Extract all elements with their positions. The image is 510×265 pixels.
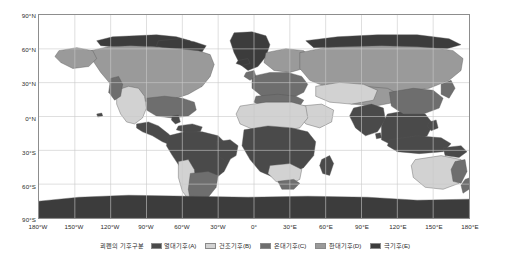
y-tick-label: 90°N [0, 12, 36, 19]
x-tick-label: 90°W [126, 223, 166, 230]
y-tick-label: 60°S [0, 182, 36, 189]
legend-label-temperate: 온대기후(C) [274, 241, 307, 250]
legend-item-arid[interactable]: 건조기후(B) [205, 241, 251, 250]
legend-swatch-tropical [151, 243, 162, 249]
x-tick-label: 150°E [414, 223, 454, 230]
x-tick-label: 30°W [198, 223, 238, 230]
region-sri-lanka-tropical [375, 133, 381, 139]
legend-label-arid: 건조기후(B) [219, 241, 251, 250]
x-tick-label: 90°E [342, 223, 382, 230]
legend-swatch-polar [370, 243, 381, 249]
legend-item-continental[interactable]: 한대기후(D) [315, 241, 361, 250]
x-tick-label: 60°E [306, 223, 346, 230]
y-tick-label: 30°N [0, 80, 36, 87]
world-map-svg [39, 15, 469, 218]
legend-swatch-continental [315, 243, 326, 249]
legend-swatch-temperate [260, 243, 271, 249]
x-tick-label: 120°E [378, 223, 418, 230]
legend-title: 쾨펜의 기후구분 [100, 241, 144, 250]
x-tick-label: 150°W [54, 223, 94, 230]
legend-swatch-arid [205, 243, 216, 249]
legend-label-continental: 한대기후(D) [329, 241, 362, 250]
legend-item-temperate[interactable]: 온대기후(C) [260, 241, 306, 250]
legend-label-tropical: 열대기후(A) [164, 241, 196, 250]
koppen-climate-map-figure: 90°N 60°N 30°N 0°N 30°S 60°S 90°S 180°W … [0, 0, 510, 265]
x-tick-label: 180°E [450, 223, 490, 230]
legend-item-tropical[interactable]: 열대기후(A) [151, 241, 197, 250]
y-tick-label: 60°N [0, 46, 36, 53]
x-tick-label: 120°W [90, 223, 130, 230]
x-tick-label: 180°W [18, 223, 58, 230]
y-tick-label: 90°S [0, 216, 36, 223]
y-tick-label: 30°S [0, 148, 36, 155]
x-tick-label: 60°W [162, 223, 202, 230]
legend-item-polar[interactable]: 극기후(E) [370, 241, 410, 250]
world-map-plot [38, 14, 470, 219]
x-tick-label: 0° [234, 223, 274, 230]
map-legend: 쾨펜의 기후구분 열대기후(A) 건조기후(B) 온대기후(C) 한대기후(D)… [0, 241, 510, 250]
y-tick-label: 0°N [0, 114, 36, 121]
x-tick-label: 30°E [270, 223, 310, 230]
legend-label-polar: 극기후(E) [384, 241, 410, 250]
